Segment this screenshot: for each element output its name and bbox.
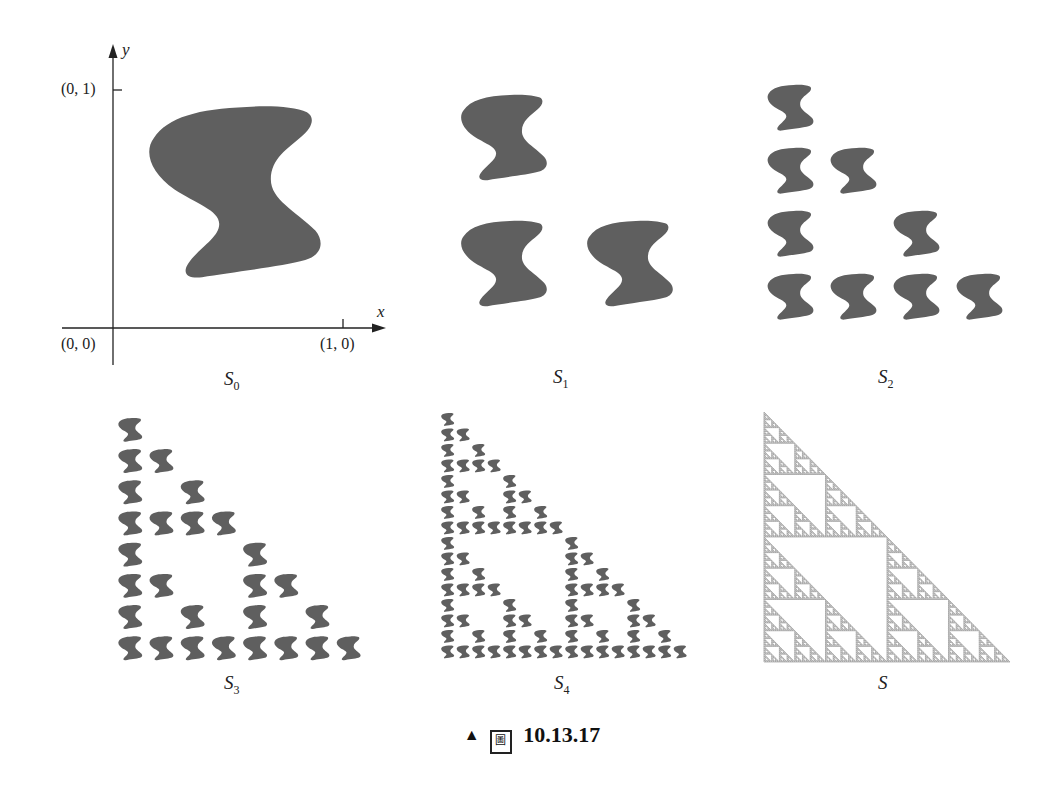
origin-label: (0, 0)	[61, 335, 96, 353]
s-shape	[181, 605, 205, 629]
s-shape	[150, 449, 174, 473]
s-shape	[658, 630, 671, 643]
s-shape	[243, 605, 267, 629]
s-shape	[118, 636, 142, 660]
s-shape	[503, 521, 516, 534]
s-shape	[550, 521, 563, 534]
s-shape	[596, 630, 609, 643]
panel-label-s0: S0	[224, 368, 240, 394]
s-shape	[534, 645, 547, 658]
s-shape	[627, 630, 640, 643]
s-shape	[472, 645, 485, 658]
s-shape	[488, 459, 501, 472]
s-shape	[658, 645, 671, 658]
s-shape	[565, 645, 578, 658]
y-axis-arrow-icon	[109, 44, 118, 58]
s-shape	[212, 512, 236, 536]
s-shape	[243, 543, 267, 567]
s-shape	[149, 106, 320, 277]
s-shape	[274, 574, 298, 598]
s-shape	[457, 521, 470, 534]
s-shape	[534, 506, 547, 519]
figure-10-13-17: y x (0, 1) (1, 0) (0, 0) S0 S1 S2 S3 S4 …	[0, 0, 1064, 787]
figure-character: 圖	[490, 730, 512, 754]
s-shape	[181, 480, 205, 504]
x-axis-arrow-icon	[372, 324, 386, 333]
s-shape	[441, 568, 454, 581]
s-shape	[441, 552, 454, 565]
s-shape	[441, 506, 454, 519]
s-shape	[441, 428, 454, 441]
s-shape	[768, 148, 814, 194]
s-shape	[519, 614, 532, 627]
s-shape	[472, 568, 485, 581]
s-shape	[150, 574, 174, 598]
s-shape	[118, 574, 142, 598]
s-shape	[472, 630, 485, 643]
s-shape	[596, 645, 609, 658]
s-shape	[118, 543, 142, 567]
s-shape	[612, 645, 625, 658]
s-shape	[488, 583, 501, 596]
s-shape	[457, 552, 470, 565]
s-shape	[565, 552, 578, 565]
s-shape	[643, 645, 656, 658]
s-shape	[212, 636, 236, 660]
s-shape	[565, 599, 578, 612]
s-shape	[503, 506, 516, 519]
panel-label-s4: S4	[554, 672, 570, 698]
s-shape	[461, 221, 547, 307]
s-shape	[457, 459, 470, 472]
s-shape	[894, 211, 940, 257]
s-shape	[274, 636, 298, 660]
figure-canvas	[0, 0, 1064, 787]
s-shape	[534, 521, 547, 534]
s-shape	[118, 605, 142, 629]
s-shape	[519, 521, 532, 534]
s-shape	[441, 583, 454, 596]
s-shape	[441, 645, 454, 658]
s-shape	[243, 574, 267, 598]
s-shape	[831, 148, 877, 194]
s-shape	[441, 444, 454, 457]
s-shape	[587, 221, 673, 307]
triangle-marker-icon: ▲	[464, 726, 480, 743]
s-shape	[627, 599, 640, 612]
s-shape	[519, 490, 532, 503]
figure-caption: ▲圖 10.13.17	[0, 722, 1064, 752]
s-shape	[674, 645, 687, 658]
s-shape	[488, 521, 501, 534]
s-shape	[488, 645, 501, 658]
s-shape	[457, 614, 470, 627]
s-shape	[534, 630, 547, 643]
s-shape	[627, 645, 640, 658]
s-shape	[243, 636, 267, 660]
s-shape	[581, 645, 594, 658]
s-shape	[519, 645, 532, 658]
s-shape	[565, 630, 578, 643]
panel-label-s2: S2	[878, 366, 894, 392]
s-shape	[503, 614, 516, 627]
tick-label-0-1: (0, 1)	[61, 80, 96, 98]
s-shape	[768, 274, 814, 320]
s-shape	[894, 274, 940, 320]
s-shape	[306, 636, 330, 660]
s-shape	[957, 274, 1003, 320]
s-shape	[457, 490, 470, 503]
s-shape	[118, 449, 142, 473]
s-shape	[550, 645, 563, 658]
s-shape	[306, 605, 330, 629]
s-shape	[441, 459, 454, 472]
s-shape	[627, 614, 640, 627]
s-shape	[150, 512, 174, 536]
s-shape	[441, 599, 454, 612]
s-shape	[118, 512, 142, 536]
s-shape	[118, 480, 142, 504]
x-axis-label: x	[377, 302, 385, 322]
s-shape	[181, 512, 205, 536]
s-shape	[337, 636, 361, 660]
s-shape	[503, 599, 516, 612]
panel-label-s1: S1	[553, 366, 569, 392]
s-shape	[612, 583, 625, 596]
s-shape	[472, 583, 485, 596]
